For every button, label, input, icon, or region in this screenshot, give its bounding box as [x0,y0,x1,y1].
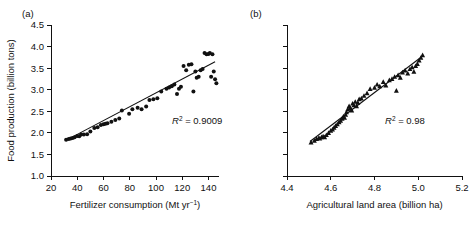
axis-lines [51,25,219,176]
data-point-triangle [394,88,399,93]
data-point-circle [214,81,218,85]
y-tick-label: 2.0 [31,127,44,138]
x-axis-title: Agricultural land area (billion ha) [306,199,442,210]
data-point-circle [172,83,176,87]
y-tick-label: 4.5 [31,19,44,30]
data-point-circle [105,121,109,125]
data-point-circle [209,75,213,79]
regression-line [310,55,424,141]
panel-b: (b)4.44.64.85.05.2R2 = 0.98Agricultural … [250,8,469,210]
data-point-circle [197,75,201,79]
figure-svg: (a)1.01.52.02.53.03.54.04.52040608010012… [0,0,475,228]
data-point-triangle [411,69,416,74]
r-squared-value: = 0.98 [396,115,425,126]
data-point-circle [201,67,205,71]
x-tick-label: 4.8 [368,182,381,193]
y-tick-label: 1.5 [31,149,44,160]
x-axis-title: Fertilizer consumption (Mt yr−1) [70,199,200,210]
data-point-circle [120,108,124,112]
x-axis-title-close: ) [197,199,200,210]
x-tick-label: 4.6 [324,182,337,193]
y-tick-label: 1.0 [31,170,44,181]
data-point-circle [191,89,195,93]
data-point-circle [193,70,197,74]
r-squared-annotation: R2 = 0.9009 [172,115,222,126]
data-point-circle [159,89,163,93]
regression-line [65,62,215,141]
data-point-circle [189,62,193,66]
r-squared-value: = 0.9009 [183,115,223,126]
data-point-circle [117,117,121,121]
data-point-circle [88,130,92,134]
y-tick-label: 4.0 [31,41,44,52]
data-point-circle [113,118,117,122]
data-point-circle [155,96,159,100]
data-point-triangle [420,53,425,58]
y-tick-label: 2.5 [31,106,44,117]
data-point-triangle [368,86,373,91]
data-point-circle [210,52,214,56]
data-point-triangle [365,91,370,96]
x-tick-label: 80 [124,182,135,193]
panel-letter-label: (b) [250,8,262,19]
data-points [64,51,218,142]
data-point-circle [182,64,186,68]
axis-lines [287,25,462,176]
r-squared-annotation: R2 = 0.98 [385,115,425,126]
data-point-circle [179,85,183,89]
data-point-circle [127,112,131,116]
data-point-circle [147,98,151,102]
data-point-circle [140,107,144,111]
data-point-circle [130,107,134,111]
data-point-circle [213,77,217,81]
data-point-circle [85,132,89,136]
x-tick-label: 5.2 [455,182,468,193]
x-tick-label: 40 [72,182,83,193]
x-tick-label: 4.4 [280,182,293,193]
data-point-circle [212,70,216,74]
y-axis-title: Food production (billion tons) [5,39,16,162]
y-tick-label: 3.5 [31,63,44,74]
figure-container: (a)1.01.52.02.53.03.54.04.52040608010012… [0,0,475,228]
data-point-circle [144,105,148,109]
data-point-circle [184,68,188,72]
data-point-circle [175,92,179,96]
x-tick-label: 140 [201,182,217,193]
y-tick-label: 3.0 [31,84,44,95]
data-point-circle [109,120,113,124]
data-point-circle [136,106,140,110]
data-point-circle [151,97,155,101]
data-point-circle [96,125,100,129]
x-axis-title-main: Fertilizer consumption (Mt yr [70,199,190,210]
panel-a: (a)1.01.52.02.53.03.54.04.52040608010012… [5,8,222,210]
x-tick-label: 5.0 [412,182,425,193]
x-tick-label: 20 [46,182,57,193]
x-tick-label: 60 [98,182,109,193]
panel-letter-label: (a) [22,8,34,19]
x-tick-label: 100 [148,182,164,193]
data-point-triangle [381,79,386,84]
x-tick-label: 120 [174,182,190,193]
